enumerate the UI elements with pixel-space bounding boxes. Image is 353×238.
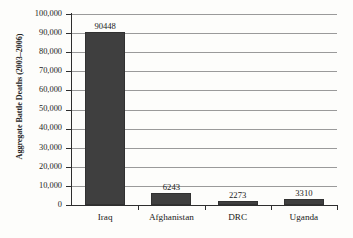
bar bbox=[284, 199, 324, 205]
x-axis-tick-mark bbox=[138, 205, 139, 210]
y-axis-tick-label: 50,000 bbox=[8, 104, 62, 113]
y-axis-tick-label: 30,000 bbox=[8, 143, 62, 152]
y-axis-tick-label: 90,000 bbox=[8, 28, 62, 37]
y-axis-tick-mark bbox=[66, 148, 71, 149]
y-axis-tick-mark bbox=[66, 205, 71, 206]
y-axis-tick-mark bbox=[66, 14, 71, 15]
y-axis-tick-mark bbox=[66, 33, 71, 34]
y-axis-tick-mark bbox=[66, 167, 71, 168]
x-axis-category-label: Uganda bbox=[254, 212, 353, 222]
gridline bbox=[72, 14, 337, 15]
y-axis-tick-mark bbox=[66, 90, 71, 91]
bar-value-label: 90448 bbox=[65, 21, 145, 31]
y-axis-tick-label: 40,000 bbox=[8, 123, 62, 132]
bar-chart-figure: Aggregate Battle Deaths (2003–2006) Iraq… bbox=[0, 0, 353, 238]
x-axis-tick-mark bbox=[271, 205, 272, 210]
plot-area bbox=[72, 14, 337, 205]
x-axis-tick-mark bbox=[205, 205, 206, 210]
y-axis-tick-label: 100,000 bbox=[8, 9, 62, 18]
y-axis-tick-label: 10,000 bbox=[8, 181, 62, 190]
y-axis-tick-label: 20,000 bbox=[8, 162, 62, 171]
y-axis-tick-label: 70,000 bbox=[8, 66, 62, 75]
bar-value-label: 3310 bbox=[264, 188, 344, 198]
bar bbox=[85, 32, 125, 205]
bar bbox=[151, 193, 191, 205]
y-axis-tick-mark bbox=[66, 110, 71, 111]
bar bbox=[218, 201, 258, 205]
y-axis-tick-mark bbox=[66, 71, 71, 72]
x-axis-tick-mark bbox=[337, 205, 338, 210]
y-axis-tick-label: 0 bbox=[8, 200, 62, 209]
y-axis-tick-mark bbox=[66, 52, 71, 53]
y-axis-tick-mark bbox=[66, 186, 71, 187]
y-axis-tick-label: 60,000 bbox=[8, 85, 62, 94]
y-axis-tick-label: 80,000 bbox=[8, 47, 62, 56]
y-axis-tick-mark bbox=[66, 129, 71, 130]
